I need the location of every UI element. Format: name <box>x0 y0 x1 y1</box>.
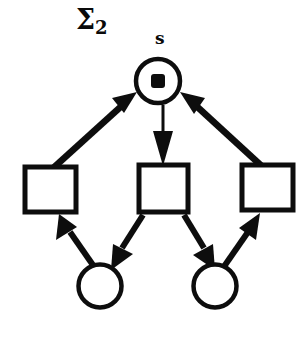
petri-net-canvas <box>0 0 308 347</box>
transition-middle[interactable] <box>139 165 188 212</box>
arc-tleft-to-s <box>51 92 137 170</box>
arc-s-to-tmiddle <box>153 105 173 166</box>
arc-tmiddle-to-pright <box>184 215 215 270</box>
transition-left[interactable] <box>25 167 76 212</box>
token-s <box>151 74 165 88</box>
arc-tright-to-s <box>180 92 266 170</box>
arc-tmiddle-to-pleft <box>111 215 143 270</box>
transition-right[interactable] <box>242 165 293 210</box>
petri-net-figure: Σ2 s <box>0 0 308 347</box>
arc-pleft-to-tleft <box>56 214 95 268</box>
arc-pright-to-tright <box>223 213 260 268</box>
place-right[interactable] <box>194 265 237 308</box>
place-left[interactable] <box>79 265 122 308</box>
